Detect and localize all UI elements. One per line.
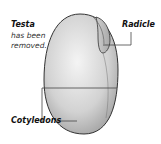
cotyledons-label: Cotyledons xyxy=(11,116,61,126)
radicle-label: Radicle xyxy=(122,20,155,30)
testa-note-line1: has been xyxy=(11,31,45,41)
testa-label: Testa xyxy=(11,20,35,30)
testa-note-line2: removed. xyxy=(11,41,47,51)
